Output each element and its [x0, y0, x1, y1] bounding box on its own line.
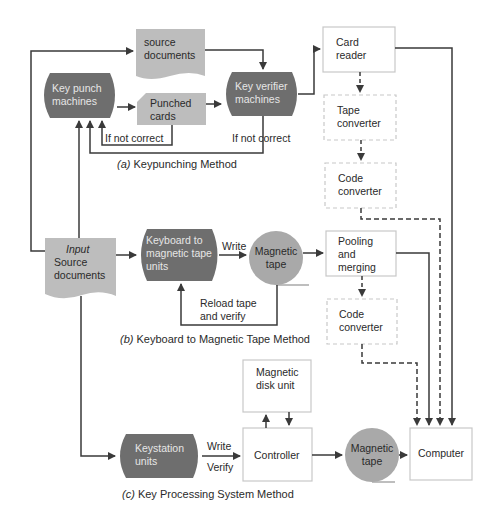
input-source-docs-label: Source documents — [54, 256, 114, 282]
magnetic-tape-b-label: Magnetic tape — [252, 245, 300, 271]
if-not-correct-label-2: If not correct — [232, 132, 290, 145]
caption-a: (a) Keypunching Method — [117, 158, 237, 170]
disk-unit-label: Magnetic disk unit — [256, 366, 306, 392]
key-verifier-label: Key verifier machines — [235, 80, 299, 106]
source-documents-label: source documents — [144, 36, 202, 62]
code-converter-a-label: Code converter — [338, 172, 394, 198]
punched-cards-label: Punched cards — [150, 97, 202, 123]
reload-verify-label: Reload tape and verify — [200, 297, 262, 323]
write-label-c: Write — [207, 440, 231, 453]
write-label-b: Write — [222, 240, 246, 253]
card-reader-label: Card reader — [336, 36, 386, 62]
keyboard-tape-label: Keyboard to magnetic tape units — [146, 234, 220, 273]
keystation-label: Keystation units — [135, 442, 195, 468]
code-converter-b-label: Code converter — [339, 308, 395, 334]
input-title-label: Input — [66, 243, 89, 256]
computer-label: Computer — [418, 447, 464, 460]
if-not-correct-label-1: If not correct — [105, 132, 163, 145]
tape-converter-label: Tape converter — [337, 104, 393, 130]
controller-label: Controller — [254, 449, 300, 462]
caption-b: (b) Keyboard to Magnetic Tape Method — [120, 333, 310, 345]
magnetic-tape-c-label: Magnetic tape — [348, 442, 396, 468]
key-punch-label: Key punch machines — [52, 82, 114, 108]
caption-c: (c) Key Processing System Method — [122, 488, 294, 500]
pooling-merging-label: Pooling and merging — [338, 235, 388, 274]
verify-label-c: Verify — [207, 461, 233, 474]
